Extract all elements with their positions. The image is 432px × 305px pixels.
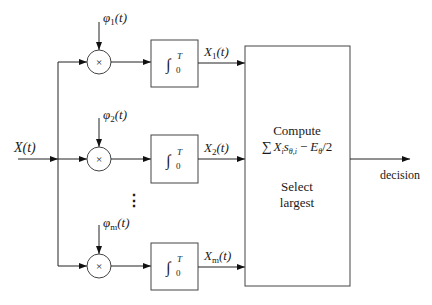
- arrowhead: [237, 156, 245, 162]
- arrowhead: [79, 156, 87, 162]
- integral-lower-limit: 0: [176, 161, 181, 171]
- arrowhead: [79, 59, 87, 65]
- multiply-icon: ×: [96, 260, 102, 272]
- arrowhead: [237, 264, 245, 270]
- arrowhead: [96, 42, 102, 50]
- integral-lower-limit: 0: [176, 268, 181, 278]
- integral-lower-limit: 0: [176, 65, 181, 75]
- arrowhead: [143, 263, 151, 269]
- ellipsis-icon: ⋮: [126, 192, 142, 209]
- decision-block: Compute ∑Xisθ,i−Eθ/2 Select largest: [245, 46, 350, 286]
- largest-label: largest: [280, 195, 315, 210]
- reference-label-2: φ2(t): [103, 107, 127, 124]
- reference-label-m: φm(t): [103, 215, 130, 232]
- input-label: X(t): [13, 140, 36, 156]
- correlator-receiver-diagram: X(t) φ1(t) × ∫ T 0 X1(t) φ2(t) × ∫: [0, 0, 432, 305]
- output-label-m: Xm(t): [203, 248, 231, 265]
- integrator-1: [151, 40, 198, 87]
- select-label: Select: [281, 179, 313, 194]
- decision-box: [245, 46, 350, 286]
- decision-label: decision: [380, 168, 420, 182]
- branch-2: φ2(t) × ∫ T 0 X2(t): [58, 107, 245, 183]
- output-signal: decision: [350, 156, 420, 182]
- output-label-1: X1(t): [203, 44, 229, 61]
- arrowhead: [79, 263, 87, 269]
- input-signal: X(t): [13, 140, 58, 162]
- arrowhead: [237, 60, 245, 66]
- integrator-2: [151, 135, 198, 183]
- multiply-icon: ×: [96, 153, 102, 165]
- compute-label: Compute: [273, 123, 321, 138]
- output-arrowhead: [402, 156, 410, 162]
- reference-label-1: φ1(t): [103, 10, 127, 27]
- output-label-2: X2(t): [203, 140, 229, 157]
- arrowhead: [96, 139, 102, 147]
- arrowhead: [143, 156, 151, 162]
- arrowhead: [96, 246, 102, 254]
- arrowhead: [143, 59, 151, 65]
- branch-m: φm(t) × ∫ T 0 Xm(t): [58, 215, 245, 290]
- branch-1: φ1(t) × ∫ T 0 X1(t): [58, 10, 245, 87]
- input-arrowhead: [50, 156, 58, 162]
- integrator-m: [151, 243, 198, 290]
- multiply-icon: ×: [96, 56, 102, 68]
